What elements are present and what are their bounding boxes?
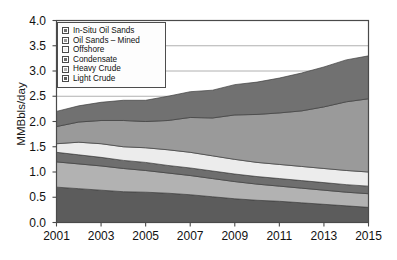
legend-item-label: Offshore	[73, 45, 104, 55]
legend-swatch-icon	[62, 46, 69, 53]
legend-swatch-icon	[62, 56, 69, 63]
legend-item-label: Condensate	[73, 55, 117, 65]
x-axis-tick-label: 2015	[355, 229, 382, 243]
legend-item-label: Oil Sands – Mined	[73, 36, 140, 46]
legend-item[interactable]: Oil Sands – Mined	[62, 36, 161, 46]
x-axis-tick-label: 2001	[43, 229, 70, 243]
legend-item[interactable]: Condensate	[62, 55, 161, 65]
legend-item[interactable]: Offshore	[62, 45, 161, 55]
x-axis-tick-label: 2005	[132, 229, 159, 243]
x-axis-tick-label: 2011	[266, 229, 292, 243]
stacked-area-chart: MMBbls/day 0.00.51.01.52.02.53.03.54.0 2…	[0, 0, 397, 260]
legend-swatch-icon	[62, 75, 69, 82]
legend-swatch-icon	[62, 66, 69, 73]
x-axis-tick-label: 2013	[311, 229, 338, 243]
legend-swatch-icon	[62, 27, 69, 34]
legend-swatch-icon	[62, 37, 69, 44]
legend-item[interactable]: Heavy Crude	[62, 64, 161, 74]
x-axis-tick-label: 2009	[221, 229, 248, 243]
legend-item-label: In-Situ Oil Sands	[73, 26, 134, 36]
legend-item[interactable]: In-Situ Oil Sands	[62, 26, 161, 36]
x-axis-tick-label: 2007	[177, 229, 204, 243]
chart-legend: In-Situ Oil SandsOil Sands – MinedOffsho…	[57, 22, 166, 88]
legend-item-label: Heavy Crude	[73, 64, 121, 74]
legend-item-label: Light Crude	[73, 74, 115, 84]
x-axis-tick-label: 2003	[88, 229, 115, 243]
legend-item[interactable]: Light Crude	[62, 74, 161, 84]
